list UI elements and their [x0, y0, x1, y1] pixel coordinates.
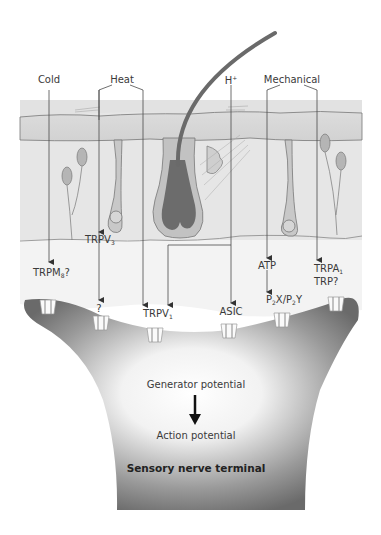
- trpm8-suffix: ?: [65, 267, 70, 278]
- receptor-asic-label: ASIC: [219, 307, 242, 317]
- stimulus-heat-label: Heat: [110, 75, 134, 85]
- trpv1-text: TRPV: [143, 308, 169, 319]
- receptor-trp-label: TRP?: [314, 277, 338, 287]
- receptor-p2x-p2y-label: P2X/P2Y: [266, 295, 302, 306]
- channel-unknown: [93, 316, 109, 330]
- proton-text: H: [225, 75, 233, 86]
- trpv1-sub: 1: [169, 313, 173, 320]
- stimulus-proton-label: H+: [225, 75, 238, 86]
- sensory-nerve-terminal-label: Sensory nerve terminal: [127, 463, 266, 474]
- trpv3-text: TRPV: [85, 234, 111, 245]
- receptor-trpv1-label: TRPV1: [143, 309, 173, 320]
- p2-c: Y: [296, 294, 302, 305]
- p2-b: X/P: [276, 294, 292, 305]
- trpa1-sub: 1: [339, 268, 343, 275]
- stimulus-mechanical-label: Mechanical: [264, 75, 320, 85]
- receptor-trpa1-label: TRPA1: [314, 264, 343, 275]
- receptor-trpv3-label: TRPV3: [85, 235, 115, 246]
- trpm8-text: TRPM: [33, 267, 61, 278]
- proton-charge: +: [232, 74, 237, 81]
- sensory-nerve-terminal: [24, 298, 359, 510]
- channel-trpm8: [40, 300, 56, 314]
- generator-potential-label: Generator potential: [147, 380, 245, 390]
- trpa1-text: TRPA: [314, 263, 339, 274]
- action-potential-label: Action potential: [157, 431, 236, 441]
- receptor-unknown-label: ?: [96, 304, 101, 314]
- channel-trpv1: [147, 328, 163, 342]
- receptor-trpm8-label: TRPM8?: [33, 268, 70, 279]
- channel-trpa1: [328, 297, 344, 311]
- channel-asic: [221, 324, 237, 338]
- channel-p2x-p2y: [274, 313, 290, 327]
- mediator-atp-label: ATP: [258, 261, 276, 271]
- stimulus-cold-label: Cold: [38, 75, 60, 85]
- trpv3-sub: 3: [111, 239, 115, 246]
